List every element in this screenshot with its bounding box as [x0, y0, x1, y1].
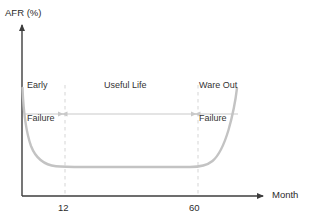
region-label-useful-life: Useful Life	[104, 58, 147, 113]
x-tick-label-12: 12	[58, 202, 69, 213]
x-tick-label-60: 60	[189, 202, 200, 213]
region-label-early-failure-line2: Failure	[27, 113, 55, 124]
region-label-early-failure-line1: Early	[27, 80, 55, 91]
region-label-early-failure: Early Failure	[27, 58, 55, 146]
region-label-useful-life-line1: Useful Life	[104, 80, 147, 91]
region-label-ware-out-failure-line1: Ware Out	[199, 80, 237, 91]
region-label-ware-out-failure: Ware Out Failure	[199, 58, 237, 146]
x-axis-label: Month	[272, 189, 298, 200]
region-label-ware-out-failure-line2: Failure	[199, 113, 237, 124]
bathtub-curve-chart: AFR (%) Month 12 60 Early Failure Useful…	[0, 0, 309, 220]
y-axis-label: AFR (%)	[5, 7, 41, 18]
